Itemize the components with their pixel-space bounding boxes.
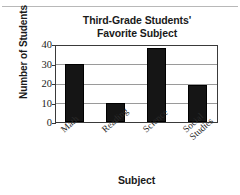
y-tick-mark-10 <box>52 104 56 105</box>
y-tick-mark-0 <box>52 123 56 124</box>
y-tick-mark-30 <box>52 65 56 66</box>
x-axis-category-labels: MathReadingScienceSocialStudies <box>55 123 218 168</box>
y-axis-label-text: Number of Students <box>18 5 29 99</box>
plot-area <box>55 45 218 123</box>
y-tick-label-40: 40 <box>30 40 52 51</box>
y-tick-label-20: 20 <box>30 79 52 90</box>
x-axis-label: Subject <box>55 174 218 186</box>
page-top-rule <box>2 6 238 7</box>
chart-title: Third-Grade Students' Favorite Subject <box>52 14 222 39</box>
chart-title-line-2: Favorite Subject <box>52 27 222 40</box>
plot-inner <box>56 46 217 122</box>
y-axis-tick-labels: 403020100 <box>28 45 52 123</box>
y-tick-mark-40 <box>52 45 56 46</box>
chart-title-line-1: Third-Grade Students' <box>52 14 222 27</box>
y-tick-label-0: 0 <box>30 118 52 129</box>
bar-math <box>65 64 84 123</box>
y-tick-mark-20 <box>52 84 56 85</box>
y-tick-label-30: 30 <box>30 60 52 71</box>
y-tick-label-10: 10 <box>30 99 52 110</box>
